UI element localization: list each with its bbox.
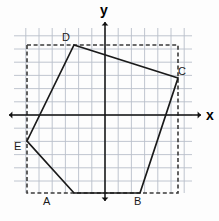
vertex-label-a: A	[43, 196, 50, 207]
figure-canvas	[0, 0, 219, 221]
coordinate-plane-figure: x y A B C D E	[0, 0, 219, 221]
y-axis-label: y	[100, 3, 108, 17]
axis-arrowhead	[102, 198, 109, 201]
vertex-label-b: B	[134, 196, 141, 207]
grid-lines	[14, 28, 192, 193]
axis-arrowhead	[9, 112, 12, 119]
vertex-label-e: E	[14, 141, 21, 152]
axis-arrowhead	[102, 22, 109, 25]
vertex-label-c: C	[178, 66, 186, 77]
bounding-box-dashed	[27, 45, 178, 193]
polygon-abcde	[27, 45, 178, 193]
axis-arrowhead	[198, 112, 201, 119]
x-axis-label: x	[206, 108, 214, 122]
vertex-label-d: D	[62, 32, 70, 43]
